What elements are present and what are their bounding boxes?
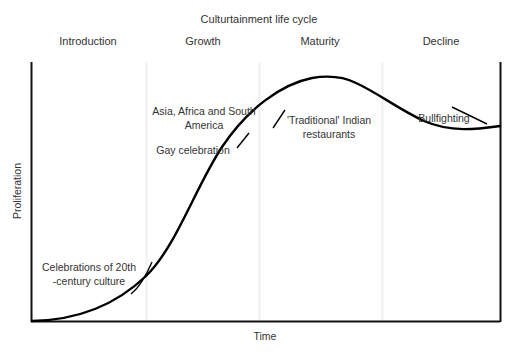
plot-canvas [0,0,518,355]
annotation-introduction-line-1: Celebrations of 20th [34,260,144,274]
culturtainment-life-cycle-figure: Culturtainment life cycle Introduction G… [0,0,518,355]
growth-leader-line [237,133,249,148]
annotation-decline-line-1: Bullfighting [404,111,484,125]
annotation-decline: Bullfighting [404,111,484,125]
annotation-growth-line-1: Asia, Africa and South [148,104,260,118]
annotation-maturity: 'Traditional' Indian restaurants [277,113,381,141]
annotation-introduction: Celebrations of 20th -century culture [34,260,144,288]
annotation-maturity-line-2: restaurants [277,127,381,141]
annotation-introduction-line-2: -century culture [34,274,144,288]
annotation-growth-line-3: Gay celebration [148,143,238,157]
annotation-growth-regions: Asia, Africa and South America [148,104,260,132]
annotation-growth-gay-celebration: Gay celebration [148,143,238,157]
y-axis-label: Proliferation [11,151,23,231]
annotation-maturity-line-1: 'Traditional' Indian [277,113,381,127]
x-axis-label: Time [235,330,295,342]
annotation-growth-line-2: America [148,118,260,132]
